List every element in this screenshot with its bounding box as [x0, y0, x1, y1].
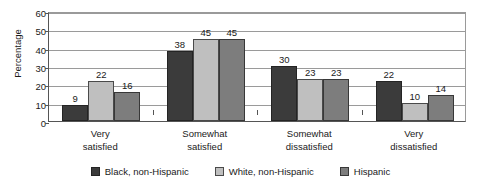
- chart-legend: Black, non-HispanicWhite, non-HispanicHi…: [0, 166, 481, 177]
- bar-value-label: 45: [211, 27, 253, 38]
- y-axis-tick-mark: [45, 123, 49, 124]
- y-axis-tick-label: 0: [20, 118, 46, 129]
- x-axis-tick-mark: [362, 110, 363, 115]
- y-axis-tick-mark: [45, 105, 49, 106]
- bar[interactable]: [219, 39, 245, 122]
- x-axis-tick-mark: [257, 110, 258, 115]
- legend-item-label: Black, non-Hispanic: [105, 166, 189, 177]
- bar[interactable]: [193, 39, 219, 122]
- bar[interactable]: [428, 95, 454, 121]
- x-axis-category-label: Somewhatsatisfied: [150, 128, 260, 153]
- legend-item[interactable]: Black, non-Hispanic: [91, 166, 189, 177]
- legend-swatch-black-non-hispanic: [91, 167, 100, 176]
- x-axis-category-label-line: Very: [359, 128, 469, 141]
- bar-chart: Percentage 60504030201009221638454530232…: [0, 0, 481, 192]
- bar-wrapper: 14: [428, 11, 454, 121]
- y-axis-tick-label: 10: [20, 99, 46, 110]
- bar-value-label: 16: [106, 80, 148, 91]
- legend-swatch-white-non-hispanic: [215, 167, 224, 176]
- y-axis-tick-label: 50: [20, 26, 46, 37]
- x-axis-category-label-line: dissatisfied: [254, 141, 364, 154]
- bar-wrapper: 22: [88, 11, 114, 121]
- bar-wrapper: 22: [376, 11, 402, 121]
- y-axis-tick-mark: [45, 68, 49, 69]
- bar-wrapper: 10: [402, 11, 428, 121]
- bar-wrapper: 9: [62, 11, 88, 121]
- bar[interactable]: [167, 51, 193, 121]
- bar[interactable]: [62, 105, 88, 122]
- y-axis-tick-mark: [45, 50, 49, 51]
- bar[interactable]: [114, 92, 140, 121]
- y-axis-tick-mark: [45, 31, 49, 32]
- plot-area: 605040302010092216384545302323221014: [48, 12, 466, 122]
- x-axis-category-label-line: Somewhat: [254, 128, 364, 141]
- x-axis-category-label-line: satisfied: [150, 141, 260, 154]
- x-axis-category-label-line: dissatisfied: [359, 141, 469, 154]
- bar-value-label: 23: [315, 67, 357, 78]
- x-axis-category-label: Somewhatdissatisfied: [254, 128, 364, 153]
- bar[interactable]: [323, 79, 349, 121]
- legend-item-label: White, non-Hispanic: [229, 166, 314, 177]
- bar[interactable]: [297, 79, 323, 121]
- y-axis-tick-label: 40: [20, 44, 46, 55]
- bar-wrapper: 45: [219, 11, 245, 121]
- y-axis-tick-mark: [45, 86, 49, 87]
- bar-value-label: 14: [420, 83, 462, 94]
- y-axis-tick-label: 60: [20, 8, 46, 19]
- y-axis-tick-mark: [45, 13, 49, 14]
- bar-wrapper: 23: [323, 11, 349, 121]
- x-axis-tick-mark: [153, 110, 154, 115]
- bar-wrapper: 16: [114, 11, 140, 121]
- legend-item[interactable]: White, non-Hispanic: [215, 166, 314, 177]
- legend-swatch-hispanic: [340, 167, 349, 176]
- x-axis-category-label: Verysatisfied: [45, 128, 155, 153]
- x-axis-category-label-line: Somewhat: [150, 128, 260, 141]
- legend-item[interactable]: Hispanic: [340, 166, 390, 177]
- bar[interactable]: [402, 103, 428, 121]
- x-axis-category-label: Verydissatisfied: [359, 128, 469, 153]
- y-axis-tick-label: 30: [20, 63, 46, 74]
- legend-item-label: Hispanic: [354, 166, 390, 177]
- x-axis-category-label-line: satisfied: [45, 141, 155, 154]
- y-axis-tick-label: 20: [20, 81, 46, 92]
- x-axis-category-label-line: Very: [45, 128, 155, 141]
